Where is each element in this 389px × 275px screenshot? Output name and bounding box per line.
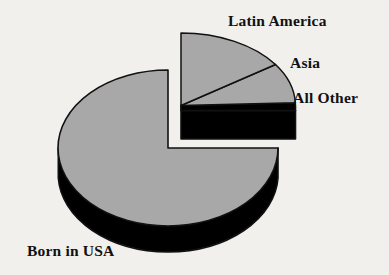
pie-chart-figure: Latin America Asia All Other Born in USA [0,0,389,275]
exploded-wedge-depth-side [181,111,296,140]
pie-chart-graphic [0,0,389,275]
slice-label-all-other: All Other [293,90,358,106]
slice-label-asia: Asia [290,55,320,71]
slice-label-born-in-usa: Born in USA [27,243,114,259]
slice-label-latin-america: Latin America [228,13,327,29]
